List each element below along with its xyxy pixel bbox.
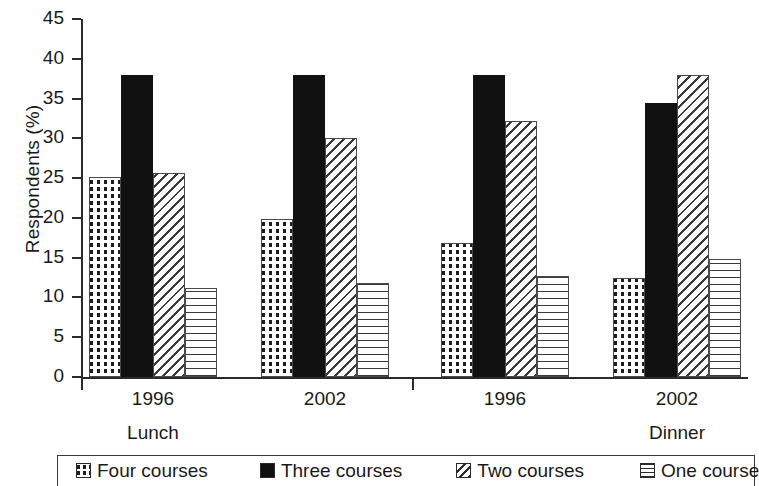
legend-swatch-diag-icon — [456, 463, 471, 478]
bar — [473, 75, 505, 377]
bar — [677, 75, 709, 377]
y-axis-tick-label: 45 — [0, 7, 64, 29]
bar — [153, 173, 185, 377]
y-axis-tick — [72, 18, 81, 20]
plot-area — [81, 19, 748, 377]
bar — [441, 243, 473, 377]
legend-label: One course — [661, 460, 759, 482]
bar — [709, 259, 741, 377]
y-axis-tick — [72, 257, 81, 259]
legend-swatch-dots-icon — [76, 463, 91, 478]
x-axis-section-label: Lunch — [88, 422, 218, 444]
legend-swatch-solid-icon — [260, 463, 275, 478]
y-axis-tick — [72, 177, 81, 179]
bar — [293, 75, 325, 377]
legend-item: Three courses — [260, 460, 402, 482]
bar — [613, 278, 645, 377]
legend: Four coursesThree coursesTwo coursesOne … — [57, 455, 755, 486]
legend-label: Two courses — [477, 460, 584, 482]
legend-swatch-horiz-icon — [640, 463, 655, 478]
y-axis-tick-label: 40 — [0, 47, 64, 69]
bar — [89, 177, 121, 377]
bar — [645, 103, 677, 377]
y-axis-tick-label: 5 — [0, 325, 64, 347]
legend-label: Four courses — [97, 460, 208, 482]
y-axis-tick — [72, 137, 81, 139]
bar — [537, 276, 569, 377]
x-axis-group-label: 1996 — [88, 388, 218, 410]
y-axis-tick — [72, 217, 81, 219]
x-axis-group-separator-tick — [412, 379, 414, 390]
legend-item: Four courses — [76, 460, 208, 482]
bar — [121, 75, 153, 377]
bar — [505, 121, 537, 377]
x-axis-group-label: 2002 — [612, 388, 742, 410]
y-axis-tick-label: 10 — [0, 285, 64, 307]
legend-label: Three courses — [281, 460, 402, 482]
x-axis-group-label: 2002 — [260, 388, 390, 410]
x-axis-section-label: Dinner — [612, 422, 742, 444]
bar — [185, 288, 217, 377]
bar — [261, 219, 293, 377]
y-axis-tick-label: 20 — [0, 206, 64, 228]
x-axis-group-label: 1996 — [440, 388, 570, 410]
y-axis-tick-label: 0 — [0, 365, 64, 387]
x-axis-line — [81, 377, 748, 379]
y-axis-tick — [72, 58, 81, 60]
y-axis-tick — [72, 98, 81, 100]
y-axis-tick — [72, 336, 81, 338]
y-axis-tick — [72, 376, 81, 378]
y-axis-tick-label: 15 — [0, 246, 64, 268]
y-axis-tick-label: 30 — [0, 126, 64, 148]
bar — [357, 283, 389, 377]
y-axis-tick-label: 25 — [0, 166, 64, 188]
legend-item: One course — [640, 460, 759, 482]
x-axis-start-tick — [81, 379, 83, 390]
bar — [325, 138, 357, 377]
y-axis-tick — [72, 296, 81, 298]
legend-item: Two courses — [456, 460, 584, 482]
y-axis-tick-label: 35 — [0, 87, 64, 109]
